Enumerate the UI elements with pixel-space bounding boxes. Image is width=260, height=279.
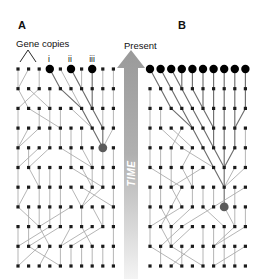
gene-copy-node [59, 186, 62, 189]
lineage-line [18, 69, 29, 89]
gene-copy-node [180, 146, 183, 149]
gene-copy-node [244, 264, 247, 267]
sampled-gene-copy-node [156, 65, 164, 73]
gene-copy-node [212, 225, 215, 228]
gene-copy-node [244, 166, 247, 169]
gene-copy-node [233, 87, 236, 90]
gene-copy-node [91, 107, 94, 110]
gene-copy-node [27, 186, 30, 189]
gene-copy-node [159, 205, 162, 208]
gene-copy-node [212, 205, 215, 208]
lineage-line [161, 89, 172, 109]
sampled-gene-copy-node [188, 65, 196, 73]
gene-copy-node [16, 205, 19, 208]
lineage-line [224, 168, 245, 188]
sampled-gene-copy-node [209, 65, 217, 73]
gene-copy-node [148, 166, 151, 169]
gene-copy-node [91, 205, 94, 208]
gene-copy-node [223, 225, 226, 228]
time-axis-bar: TIME [117, 50, 145, 279]
gene-copy-node [148, 127, 151, 130]
gene-copy-node [112, 107, 115, 110]
gene-copy-node [16, 225, 19, 228]
gene-copy-node [48, 225, 51, 228]
lineage-line [29, 168, 40, 188]
sampled-gene-copy-node [167, 65, 175, 73]
lineage-line [171, 246, 203, 266]
gene-copy-node [69, 107, 72, 110]
gene-copy-node [244, 87, 247, 90]
gene-copy-node [38, 205, 41, 208]
gene-copy-label-ii: ii [64, 54, 76, 64]
gene-copy-node [112, 186, 115, 189]
gene-copy-node [244, 107, 247, 110]
gene-copy-node [48, 146, 51, 149]
gene-copy-node [16, 245, 19, 248]
panel-b-nodes [146, 65, 250, 268]
gene-copy-node [16, 107, 19, 110]
gene-copy-node [244, 225, 247, 228]
panel-b-letter: B [178, 19, 186, 31]
gene-copy-node [91, 166, 94, 169]
gene-copy-node [223, 264, 226, 267]
gene-copy-node [80, 245, 83, 248]
lineage-line [235, 108, 246, 128]
panel-a-letter: A [18, 19, 26, 31]
gene-copy-node [170, 107, 173, 110]
gene-copy-node [233, 146, 236, 149]
sampled-gene-copy-node [88, 65, 96, 73]
gene-copy-node [101, 186, 104, 189]
gene-copy-node [91, 245, 94, 248]
gene-copy-node [48, 107, 51, 110]
gene-copy-node [16, 166, 19, 169]
gene-copy-node [191, 166, 194, 169]
lineage-line [18, 187, 29, 207]
gene-copy-node [48, 205, 51, 208]
gene-copy-node [27, 225, 30, 228]
gene-copy-node [159, 107, 162, 110]
gene-copies-label: Gene copies [16, 38, 69, 49]
gene-copy-node [170, 264, 173, 267]
gene-copy-node [233, 186, 236, 189]
gene-copy-node [201, 87, 204, 90]
lineage-line [18, 89, 39, 109]
gene-copy-node [159, 245, 162, 248]
lineage-line [82, 168, 93, 188]
gene-copy-node [80, 107, 83, 110]
lineage-line [203, 108, 214, 128]
gene-copy-node [223, 107, 226, 110]
gene-copy-node [223, 146, 226, 149]
gene-copy-node [48, 186, 51, 189]
gene-copy-node [48, 264, 51, 267]
gene-copy-node [69, 264, 72, 267]
gene-copy-node [38, 87, 41, 90]
lineage-line [203, 128, 214, 148]
gene-copy-node [112, 67, 115, 70]
gene-copy-node [101, 166, 104, 169]
sampled-gene-copy-node [220, 65, 228, 73]
gene-copy-node [159, 186, 162, 189]
gene-copy-node [59, 67, 62, 70]
gene-copy-node [80, 87, 83, 90]
lineage-line [171, 207, 192, 227]
lineage-line [150, 246, 182, 266]
gene-copy-node [212, 245, 215, 248]
gene-copy-node [80, 146, 83, 149]
mrca-node [98, 143, 107, 152]
gene-copy-node [38, 245, 41, 248]
gene-copies-bracket [20, 50, 36, 62]
gene-copy-node [16, 146, 19, 149]
gene-copy-node [112, 205, 115, 208]
gene-copy-node [48, 245, 51, 248]
gene-copy-node [159, 127, 162, 130]
gene-copy-node [38, 264, 41, 267]
lineage-line [60, 148, 92, 168]
gene-copy-label-i: i [44, 54, 54, 64]
gene-copy-node [69, 87, 72, 90]
gene-copy-node [201, 264, 204, 267]
gene-copy-node [91, 127, 94, 130]
sampled-gene-copy-node [146, 65, 154, 73]
lineage-line [182, 89, 193, 109]
gene-copy-node [101, 87, 104, 90]
lineage-line [150, 168, 182, 188]
